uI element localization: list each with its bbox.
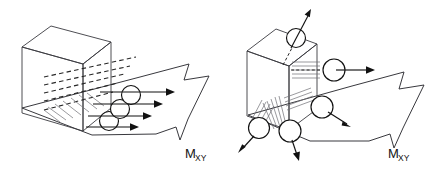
right-lower-hatch bbox=[284, 88, 314, 110]
right-lower-force-circle bbox=[311, 96, 333, 118]
right-moment-label-subscript: XY bbox=[398, 153, 410, 163]
right-plate-element-cube bbox=[247, 29, 317, 130]
right-bottom-left-force-arrow bbox=[238, 136, 254, 153]
right-lower-force-arrow bbox=[328, 112, 351, 127]
right-top-force bbox=[283, 9, 311, 65]
left-plate-element-cube bbox=[22, 26, 111, 131]
right-bottom-left-force-circle bbox=[249, 118, 270, 139]
right-moment-label: M XY bbox=[388, 146, 410, 163]
right-bottom-center-force-arrow bbox=[292, 140, 300, 161]
left-moment-label-subscript: XY bbox=[195, 153, 207, 163]
right-side-force bbox=[291, 59, 375, 81]
left-force-circle-3 bbox=[122, 86, 141, 105]
right-bottom-left-force bbox=[238, 100, 274, 153]
left-moment-label: M XY bbox=[185, 146, 207, 163]
left-panel: M XY bbox=[22, 26, 209, 163]
diagram-svg: M XY bbox=[0, 0, 429, 171]
figure-canvas: M XY bbox=[0, 0, 429, 171]
right-bottom-center-force-circle bbox=[279, 120, 301, 142]
right-panel: M XY bbox=[238, 9, 424, 163]
